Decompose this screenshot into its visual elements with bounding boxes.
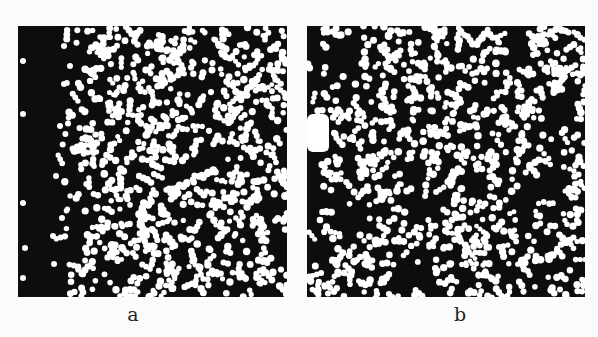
panel-a-label: a: [113, 305, 153, 324]
particle-field: [307, 26, 585, 297]
white-blob: [307, 114, 329, 152]
panel-b-label: b: [440, 305, 480, 324]
panel-a-image: [18, 26, 287, 297]
particle-field: [18, 26, 287, 297]
panel-b-image: [307, 26, 585, 297]
